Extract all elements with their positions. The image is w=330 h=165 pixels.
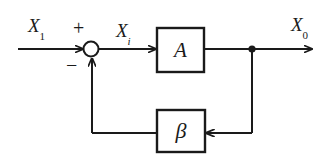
error-signal-subscript: i xyxy=(128,35,131,47)
input-signal-subscript: 1 xyxy=(40,30,46,42)
output-signal-symbol: X xyxy=(291,14,303,35)
input-signal-label: X1 xyxy=(28,16,45,39)
block-diagram-canvas: X1 + − Xi X0 A β xyxy=(0,0,330,165)
forward-gain-block-label: A xyxy=(157,40,204,61)
plus-sign-label: + xyxy=(73,18,84,38)
summing-junction-node xyxy=(84,42,99,57)
output-signal-subscript: 0 xyxy=(303,29,309,41)
error-signal-symbol: X xyxy=(116,20,128,41)
input-signal-symbol: X xyxy=(28,15,40,36)
output-signal-label: X0 xyxy=(291,15,308,38)
error-signal-label: Xi xyxy=(116,21,131,44)
feedback-gain-block-label: β xyxy=(157,120,205,142)
minus-sign-label: − xyxy=(66,55,77,75)
